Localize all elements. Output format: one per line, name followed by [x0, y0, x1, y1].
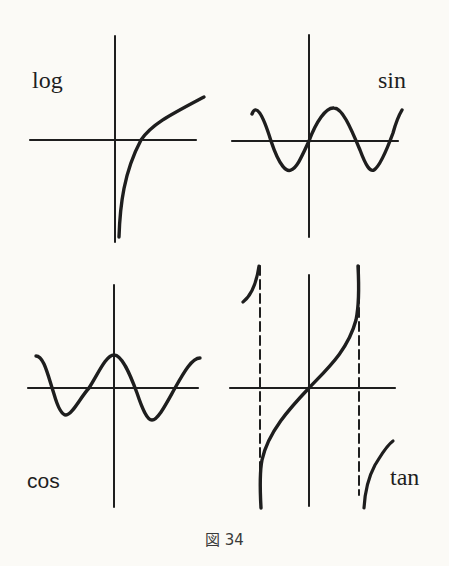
- tan-curve-left-branch: [243, 266, 259, 302]
- log-curve: [119, 97, 204, 237]
- tan-curve-right-branch: [364, 441, 393, 508]
- log-label: log: [32, 68, 63, 92]
- cos-label: cos: [27, 470, 60, 491]
- sin-label: sin: [378, 68, 406, 92]
- sin-graph: [232, 35, 402, 237]
- tan-graph: [230, 266, 395, 508]
- tan-label: tan: [390, 465, 419, 489]
- sin-curve: [252, 108, 402, 170]
- figure-caption: 図 34: [0, 528, 449, 549]
